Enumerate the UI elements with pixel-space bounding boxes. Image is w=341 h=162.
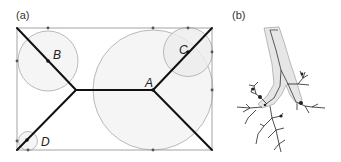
point-label-A: A [144, 76, 153, 90]
bronchial-tree-illustration [237, 27, 325, 152]
point-label-D: D [41, 135, 50, 149]
point-label-B: B [53, 48, 61, 62]
point-label-C: C [179, 43, 188, 57]
medial-axis-diagram: A B C D [0, 0, 341, 162]
